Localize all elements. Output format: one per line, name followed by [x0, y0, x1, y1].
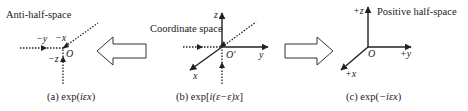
- origin-label-b: O′: [226, 49, 236, 60]
- neg-y-label: −y: [36, 33, 48, 44]
- x-label-b: x: [192, 70, 198, 81]
- incoming-x-dotted: [222, 22, 256, 47]
- neg-x-axis-dotted: [63, 23, 98, 48]
- origin-label-a: O: [66, 48, 73, 59]
- pos-x-axis: [341, 47, 368, 70]
- neg-y-arrowhead-icon: [41, 45, 47, 51]
- z-label-b: z: [213, 9, 218, 20]
- neg-z-label: −z: [48, 53, 59, 64]
- neg-x-label: −x: [55, 32, 67, 43]
- y-label-b: y: [258, 49, 264, 60]
- panel-a-anti-half-space: Anti-half-space −y −x −z O (a) exp(iεx): [6, 9, 98, 103]
- half-space-diagram: Anti-half-space −y −x −z O (a) exp(iεx) …: [0, 0, 468, 111]
- x-axis: [190, 47, 222, 70]
- caption-b: (b) exp[i(ε−ε)x]: [176, 91, 243, 103]
- caption-a: (a) exp(iεx): [47, 91, 96, 103]
- incoming-y-arrowhead-icon: [197, 44, 203, 50]
- panel-c-positive-half-space: +z Positive half-space O +y +x (c) exp(−…: [341, 5, 457, 103]
- pos-x-label: +x: [345, 68, 357, 79]
- panel-b-title: Coordinate space: [150, 23, 223, 34]
- pos-y-label: +y: [400, 48, 412, 59]
- origin-label-c: O: [368, 48, 375, 59]
- panel-c-title: Positive half-space: [377, 6, 457, 17]
- pos-z-label: +z: [353, 5, 364, 16]
- panel-a-title: Anti-half-space: [6, 9, 72, 20]
- hollow-arrow-right-icon: [285, 37, 333, 65]
- incoming-z-arrowhead-icon: [219, 62, 225, 68]
- caption-c: (c) exp(−iεx): [346, 91, 402, 103]
- panel-b-coordinate-space: Coordinate space z y x O′ (b) exp[i(ε−ε)…: [150, 9, 268, 103]
- hollow-arrow-left-icon: [97, 37, 146, 65]
